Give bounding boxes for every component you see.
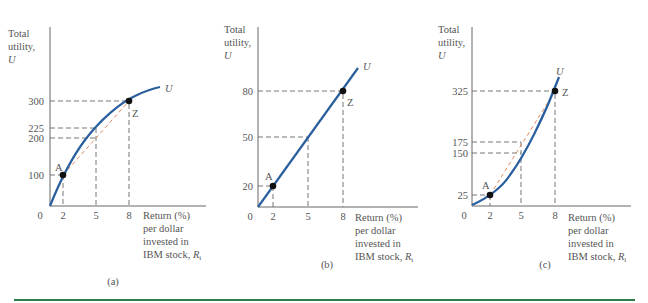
x-tick-2: 2: [487, 210, 492, 221]
curve-u-label: U: [556, 66, 565, 77]
x-axis-label-line3: invested in: [143, 236, 190, 247]
point-a: [270, 183, 277, 190]
panel-caption-c: (c): [539, 259, 551, 271]
chord-a-z: [490, 91, 555, 195]
point-z-label: Z: [347, 97, 353, 108]
x-tick-5: 5: [305, 211, 310, 222]
y-tick-325: 325: [452, 86, 468, 97]
y-axis-label-line2: utility,: [224, 37, 251, 48]
x-axis-label-line4: IBM stock, Ri: [568, 251, 626, 264]
y-axis-label-line3: U: [224, 50, 233, 61]
y-tick-200: 200: [28, 133, 44, 144]
x-tick-5: 5: [93, 210, 98, 221]
y-tick-50: 50: [243, 132, 254, 143]
x-axis-label-line2: per dollar: [143, 223, 184, 234]
y-tick-25: 25: [458, 190, 469, 201]
origin-label: 0: [461, 210, 466, 221]
panel-caption-b: (b): [321, 259, 334, 271]
x-tick-2: 2: [270, 211, 275, 222]
point-z: [340, 88, 347, 95]
y-tick-20: 20: [243, 181, 254, 192]
x-tick-8: 8: [552, 210, 557, 221]
bottom-rule: [14, 299, 635, 301]
point-a-label: A: [482, 180, 490, 191]
x-axis-label-line2: per dollar: [355, 225, 396, 236]
x-axis-label-line1: Return (%): [355, 212, 402, 224]
point-a: [487, 192, 494, 199]
y-tick-100: 100: [28, 170, 44, 181]
panel-b: Total utility, U A Z U 80 50 20 0 2 5 8 …: [224, 24, 418, 271]
point-z-label: Z: [562, 87, 568, 98]
origin-label: 0: [37, 210, 42, 221]
x-axis-label-line2: per dollar: [568, 225, 609, 236]
x-tick-8: 8: [340, 211, 345, 222]
panel-c: Total utility, U A Z U 325 175 150 25 0 …: [438, 24, 631, 271]
x-tick-5: 5: [518, 210, 523, 221]
guide-lines: [50, 101, 129, 206]
point-z: [552, 88, 559, 95]
utility-curve: [50, 87, 160, 206]
point-a-label: A: [265, 171, 273, 182]
y-tick-175: 175: [452, 137, 468, 148]
y-tick-80: 80: [243, 86, 254, 97]
y-tick-300: 300: [28, 96, 44, 107]
y-axis-label-line2: utility,: [8, 41, 35, 52]
curve-u-label: U: [363, 61, 372, 72]
origin-label: 0: [247, 211, 252, 222]
x-tick-8: 8: [126, 210, 131, 221]
x-axis-label-line3: invested in: [355, 238, 402, 249]
panel-a: Total utility, U A Z U 300 225 200 100 0…: [8, 27, 206, 288]
point-z-label: Z: [132, 108, 138, 119]
y-axis-label-line1: Total: [438, 24, 460, 35]
utility-figure: Total utility, U A Z U 300 225 200 100 0…: [0, 0, 648, 303]
y-tick-150: 150: [452, 148, 468, 159]
x-axis-label-line4: IBM stock, Ri: [143, 249, 201, 262]
y-axis-label-line3: U: [438, 50, 447, 61]
x-axis-label-line4: IBM stock, Ri: [355, 251, 413, 264]
x-axis-label-line1: Return (%): [568, 212, 615, 224]
panel-caption-a: (a): [107, 276, 119, 288]
y-axis-label-line3: U: [8, 54, 17, 65]
x-tick-2: 2: [60, 210, 65, 221]
y-axis-label-line1: Total: [224, 24, 246, 35]
point-z: [126, 98, 133, 105]
curve-u-label: U: [165, 83, 174, 94]
x-axis-label-line1: Return (%): [143, 210, 190, 222]
y-axis-label-line2: utility,: [438, 37, 465, 48]
point-a-label: A: [55, 162, 63, 173]
x-axis-label-line3: invested in: [568, 238, 615, 249]
y-axis-label-line1: Total: [8, 28, 30, 39]
